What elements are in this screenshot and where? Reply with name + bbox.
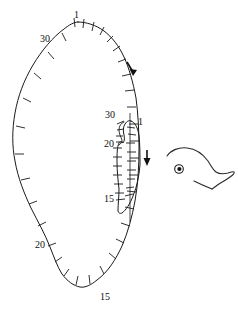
inner-label-20: 20 [104, 139, 114, 149]
outer-loop-ticks [15, 18, 139, 285]
inner-loop-ticks [113, 121, 136, 200]
fish-head-icon [167, 148, 234, 189]
outer-loop-path [13, 22, 139, 287]
inner-label-1: 1 [138, 117, 143, 127]
outer-label-30: 30 [40, 34, 50, 44]
outer-loop-group [13, 18, 139, 287]
trajectory-figure [0, 0, 238, 313]
outer-label-20: 20 [35, 240, 45, 250]
figure-container: 1 30 20 15 30 1 20 15 [0, 0, 238, 313]
outer-label-1: 1 [74, 10, 79, 20]
inner-label-30: 30 [105, 110, 115, 120]
outer-label-15: 15 [100, 292, 110, 302]
fish-jaw-line [194, 181, 212, 189]
eye-pupil-icon [177, 167, 181, 171]
arrow-down-icon [144, 150, 151, 166]
inner-label-15: 15 [104, 194, 114, 204]
inner-loop-group [113, 113, 140, 222]
